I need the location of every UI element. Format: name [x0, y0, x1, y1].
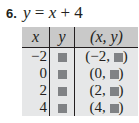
cell-pair: (4, ) — [75, 99, 139, 116]
header-pair: (x, y) — [75, 27, 139, 47]
blank-answer-box — [58, 87, 67, 96]
cell-y — [50, 82, 75, 99]
problem-number: 6. — [6, 6, 17, 21]
cell-pair: (2, ) — [75, 82, 139, 99]
blank-answer-box — [110, 87, 119, 96]
cell-y — [50, 65, 75, 82]
cell-pair: (0, ) — [75, 65, 139, 82]
equation: y = x + 4 — [23, 3, 83, 23]
blank-answer-box — [58, 70, 67, 79]
blank-answer-box — [58, 53, 67, 62]
equation-constant: 4 — [74, 3, 83, 22]
plus-sign: + — [60, 3, 70, 22]
table-row: 0 (0, ) — [22, 65, 138, 82]
cell-x: 4 — [22, 99, 50, 116]
blank-answer-box — [110, 70, 119, 79]
blank-answer-box — [58, 104, 67, 113]
cell-x: −2 — [22, 47, 50, 65]
table-row: −2 (−2, ) — [22, 47, 138, 65]
header-y: y — [50, 27, 75, 47]
cell-x: 2 — [22, 82, 50, 99]
blank-answer-box — [114, 53, 123, 62]
cell-y — [50, 47, 75, 65]
cell-x: 0 — [22, 65, 50, 82]
table-header-row: x y (x, y) — [22, 27, 138, 47]
table-row: 4 (4, ) — [22, 99, 138, 116]
blank-answer-box — [110, 104, 119, 113]
cell-pair: (−2, ) — [75, 47, 139, 65]
cell-y — [50, 99, 75, 116]
equation-lhs: y — [23, 3, 31, 22]
equation-x: x — [49, 3, 57, 22]
value-table: x y (x, y) −2 (−2, ) 0 (0, ) 2 (2, ) 4 (… — [22, 27, 138, 116]
equals-sign: = — [35, 3, 45, 22]
header-x: x — [22, 27, 50, 47]
table-row: 2 (2, ) — [22, 82, 138, 99]
